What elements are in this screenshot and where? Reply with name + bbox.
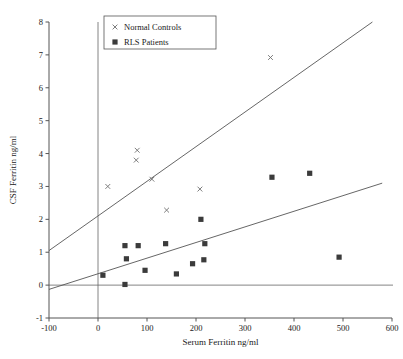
data-point-square: [190, 261, 195, 266]
data-point-cross: [105, 184, 110, 189]
x-tick-label: 0: [96, 323, 100, 333]
data-point-cross: [268, 55, 273, 60]
data-point-square: [163, 241, 168, 246]
y-tick-label: -1: [36, 313, 43, 323]
y-tick-label: 6: [39, 83, 43, 93]
data-point-square: [198, 217, 203, 222]
x-tick-label: 300: [239, 323, 252, 333]
x-tick-label: 500: [337, 323, 350, 333]
axes: -1000100200300400500600-1012345678Serum …: [8, 17, 398, 347]
data-point-cross: [198, 187, 203, 192]
legend-label: Normal Controls: [124, 22, 181, 32]
data-point-cross: [134, 158, 139, 163]
data-point-square: [201, 257, 206, 262]
x-tick-label: -100: [41, 323, 57, 333]
legend-marker-square: [112, 39, 117, 44]
y-axis-title: CSF Ferritin ng/ml: [8, 135, 18, 204]
data-point-square: [202, 241, 207, 246]
x-tick-label: 200: [190, 323, 203, 333]
y-tick-label: 4: [39, 149, 44, 159]
data-point-square: [269, 175, 274, 180]
series-normal-controls: [105, 55, 272, 212]
y-tick-label: 0: [39, 280, 43, 290]
data-point-square: [336, 255, 341, 260]
data-point-cross: [135, 148, 140, 153]
y-tick-label: 2: [39, 214, 43, 224]
plot-area: [49, 22, 394, 318]
x-axis-title: Serum Ferritin ng/ml: [183, 337, 259, 347]
y-tick-label: 1: [39, 247, 43, 257]
series-rls-patients: [100, 171, 341, 287]
x-tick-label: 100: [141, 323, 154, 333]
y-tick-label: 7: [39, 50, 43, 60]
data-point-square: [122, 282, 127, 287]
data-point-square: [100, 273, 105, 278]
data-point-square: [142, 268, 147, 273]
rls-patients-fit: [49, 183, 382, 289]
legend: Normal ControlsRLS Patients: [104, 16, 216, 49]
scatter-plot-figure: -1000100200300400500600-1012345678Serum …: [0, 0, 403, 359]
y-tick-label: 5: [39, 116, 43, 126]
data-point-square: [174, 271, 179, 276]
data-point-cross: [164, 208, 169, 213]
legend-label: RLS Patients: [124, 37, 169, 47]
y-tick-label: 3: [39, 181, 43, 191]
x-tick-label: 600: [386, 323, 399, 333]
data-point-square: [307, 171, 312, 176]
x-tick-label: 400: [288, 323, 301, 333]
chart-canvas: -1000100200300400500600-1012345678Serum …: [0, 0, 403, 359]
data-point-square: [124, 256, 129, 261]
data-point-square: [122, 243, 127, 248]
data-point-square: [136, 243, 141, 248]
normal-controls-fit: [49, 22, 372, 251]
y-tick-label: 8: [39, 17, 43, 27]
